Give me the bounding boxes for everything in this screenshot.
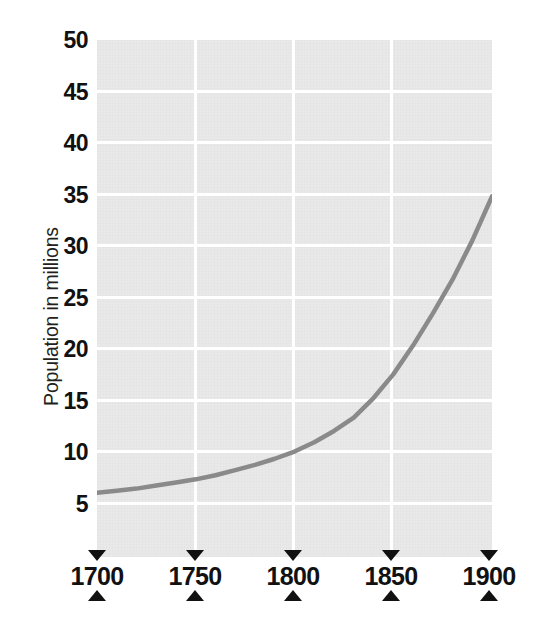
triangle-up-icon — [382, 590, 400, 601]
x-axis: 1700 1750 1800 1850 1900 — [0, 0, 535, 630]
triangle-up-icon — [284, 590, 302, 601]
triangle-down-icon — [480, 550, 498, 561]
triangle-down-icon — [88, 550, 106, 561]
x-tick-group: 1900 — [429, 550, 535, 601]
x-tick-label: 1900 — [429, 563, 535, 589]
triangle-up-icon — [480, 590, 498, 601]
triangle-up-icon — [186, 590, 204, 601]
triangle-up-icon — [88, 590, 106, 601]
triangle-down-icon — [284, 550, 302, 561]
triangle-down-icon — [186, 550, 204, 561]
triangle-down-icon — [382, 550, 400, 561]
population-growth-chart: Population in millions 50 45 40 35 30 25… — [0, 0, 535, 630]
